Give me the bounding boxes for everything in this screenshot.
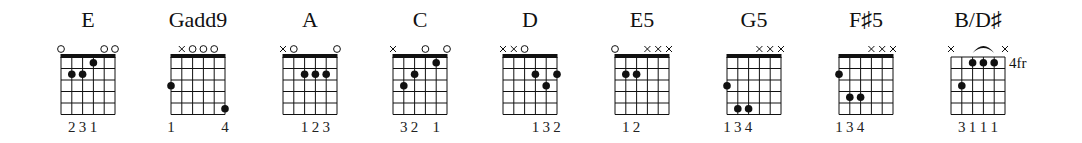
finger-number: 2 [551,119,563,136]
finger-dot [167,82,175,90]
finger-dot [553,70,561,78]
muted-string-icon [644,46,650,52]
nut [61,54,116,58]
finger-number: 1 [988,119,1000,136]
finger-dot [633,70,641,78]
chord-diagram: B/D♯4fr3111 [931,0,1041,143]
nut [727,54,782,58]
chord-diagram: E231 [41,0,151,143]
finger-dot [221,105,229,113]
finger-numbers: 321 [373,119,483,137]
nut [615,54,670,58]
chord-diagram: F♯5134 [819,0,929,143]
muted-string-icon [500,46,506,52]
open-string-icon [444,46,451,53]
finger-dot [322,70,330,78]
finger-number: 4 [219,119,231,136]
muted-string-icon [948,46,954,52]
finger-numbers: 123 [263,119,373,137]
finger-dot [312,70,320,78]
muted-string-icon [1002,46,1008,52]
finger-numbers: 3111 [931,119,1041,137]
nut [839,54,894,58]
finger-dot [90,59,98,67]
finger-dot [857,93,865,101]
chord-diagram: D132 [483,0,593,143]
finger-dot [846,93,854,101]
finger-dot [990,59,998,67]
finger-numbers: 14 [151,119,261,137]
muted-string-icon [879,46,885,52]
finger-number: 2 [409,119,421,136]
chord-diagram: Gadd914 [151,0,261,143]
finger-dot [432,59,440,67]
chord-chart: E231Gadd914A123C321D132E512G5134F♯5134B/… [0,0,1082,143]
finger-dot [68,70,76,78]
finger-numbers: 134 [707,119,817,137]
chord-diagram: C321 [373,0,483,143]
muted-string-icon [390,46,396,52]
finger-number: 1 [165,119,177,136]
finger-dot [980,59,988,67]
open-string-icon [58,46,65,53]
finger-number: 4 [855,119,867,136]
finger-dot [734,105,742,113]
open-string-icon [211,46,218,53]
finger-number: 4 [743,119,755,136]
finger-dot [745,105,753,113]
muted-string-icon [179,46,185,52]
finger-numbers: 12 [595,119,705,137]
finger-numbers: 231 [41,119,151,137]
finger-dot [622,70,630,78]
finger-dot [400,82,408,90]
chord-diagram: A123 [263,0,373,143]
finger-dot [969,59,977,67]
muted-string-icon [655,46,661,52]
open-string-icon [101,46,108,53]
open-string-icon [612,46,619,53]
finger-dot [411,70,419,78]
barre-arc [973,46,995,53]
muted-string-icon [666,46,672,52]
finger-numbers: 134 [819,119,929,137]
nut [393,54,448,58]
muted-string-icon [280,46,286,52]
open-string-icon [290,46,297,53]
fret-position-label: 4fr [1009,55,1027,71]
muted-string-icon [511,46,517,52]
muted-string-icon [778,46,784,52]
finger-dot [958,82,966,90]
muted-string-icon [890,46,896,52]
open-string-icon [112,46,119,53]
finger-numbers: 132 [483,119,593,137]
open-string-icon [334,46,341,53]
finger-number: 3 [320,119,332,136]
muted-string-icon [756,46,762,52]
open-string-icon [189,46,196,53]
finger-dot [723,82,731,90]
nut [283,54,338,58]
muted-string-icon [868,46,874,52]
finger-dot [532,70,540,78]
finger-dot [542,82,550,90]
chord-diagram: G5134 [707,0,817,143]
finger-dot [301,70,309,78]
chord-diagram: E512 [595,0,705,143]
finger-number: 1 [87,119,99,136]
muted-string-icon [767,46,773,52]
finger-dot [835,70,843,78]
nut [171,54,226,58]
open-string-icon [200,46,207,53]
finger-number: 2 [631,119,643,136]
open-string-icon [422,46,429,53]
open-string-icon [521,46,528,53]
finger-dot [79,70,87,78]
nut [503,54,558,58]
finger-number: 1 [430,119,442,136]
